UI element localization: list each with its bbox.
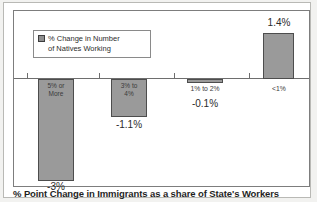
bar-category-label-1: 5% or More xyxy=(38,82,74,98)
bar-value-label-2: -1.1% xyxy=(99,119,159,130)
axis-tick xyxy=(99,73,100,78)
bar-category-label-4: <1% xyxy=(258,85,300,93)
bar-value-label-4: 1.4% xyxy=(249,17,309,28)
legend-swatch-icon xyxy=(38,35,45,42)
bar-category-4[interactable] xyxy=(263,33,294,79)
axis-tick xyxy=(249,73,250,78)
bar-value-label-3: -0.1% xyxy=(175,98,235,109)
figure-outer-frame: 5% or More -3% 3% to 4% -1.1% 1% to 2% -… xyxy=(3,2,311,198)
legend[interactable]: % Change in Number of Natives Working xyxy=(33,30,151,58)
plot-area: 5% or More -3% 3% to 4% -1.1% 1% to 2% -… xyxy=(13,10,310,187)
bar-category-label-3: 1% to 2% xyxy=(180,85,230,93)
bar-category-3[interactable] xyxy=(187,79,223,83)
axis-tick xyxy=(174,73,175,78)
chart-screenshot: 5% or More -3% 3% to 4% -1.1% 1% to 2% -… xyxy=(0,0,317,202)
axis-title-band: % Point Change in Immigrants as a share … xyxy=(13,187,310,200)
legend-label: % Change in Number of Natives Working xyxy=(48,34,120,53)
bar-category-label-2: 3% to 4% xyxy=(111,82,147,98)
axis-tick xyxy=(27,73,28,78)
x-axis-title: % Point Change in Immigrants as a share … xyxy=(13,188,279,199)
